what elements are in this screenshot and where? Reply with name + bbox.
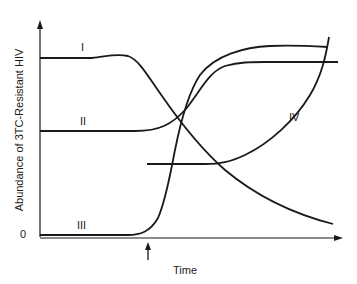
curve-III-label: III: [77, 219, 86, 231]
diagram-plot: [0, 0, 357, 284]
y-axis-label: Abundance of 3TC-Resistant HIV: [13, 49, 25, 212]
y-axis-arrow-icon: [37, 20, 43, 29]
y-zero-tick-label: 0: [20, 228, 26, 240]
x-axis-arrow-icon: [334, 235, 343, 241]
curve-I: [40, 55, 333, 224]
curve-I-label: I: [81, 41, 84, 53]
curve-II-label: II: [80, 115, 86, 127]
treatment-arrow-icon: [145, 242, 151, 250]
x-axis-label: Time: [173, 264, 197, 276]
curve-IV: [147, 37, 329, 164]
curve-IV-label: IV: [289, 111, 299, 123]
